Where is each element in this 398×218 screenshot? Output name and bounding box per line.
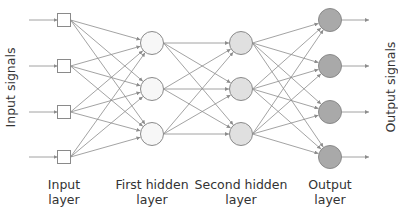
input-node [58, 151, 71, 164]
connection [164, 95, 231, 134]
hidden2-node [230, 32, 253, 55]
hidden1-node [141, 123, 164, 146]
output-node [319, 55, 342, 78]
connections [71, 20, 324, 157]
hidden1-node [141, 78, 164, 101]
output-node [319, 9, 342, 32]
connection [164, 43, 234, 125]
hidden2-node [230, 123, 253, 146]
input-node [58, 14, 71, 27]
output-node [319, 146, 342, 169]
first-hidden-layer-label: First hidden layer [107, 177, 197, 207]
second-hidden-layer-label: Second hidden layer [191, 177, 291, 207]
connection [253, 43, 322, 104]
input-signals-label: Input signals [3, 48, 18, 128]
connection [71, 137, 141, 157]
connection [253, 43, 324, 147]
output-node [319, 101, 342, 124]
connection [71, 20, 141, 40]
connection [164, 43, 231, 83]
input-node [58, 60, 71, 73]
neurons [58, 9, 342, 169]
connection [164, 52, 234, 134]
connection [71, 97, 143, 157]
output-layer-label: Output layer [295, 177, 365, 207]
connection [71, 53, 146, 157]
input-layer-label: Input layer [34, 177, 94, 207]
connection [253, 30, 324, 134]
connection [71, 20, 143, 81]
connection [71, 51, 143, 112]
input-node [58, 106, 71, 119]
output-signals-label: Output signals [383, 43, 398, 133]
hidden1-node [141, 32, 164, 55]
connection [253, 23, 319, 43]
hidden2-node [230, 78, 253, 101]
connection [253, 134, 319, 154]
signal-arrows [29, 20, 369, 157]
connection [71, 66, 143, 126]
